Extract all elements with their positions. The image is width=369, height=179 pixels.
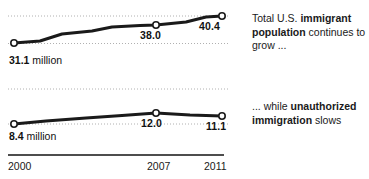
x-tick-label-2007: 2007: [147, 160, 170, 172]
marker-point-2007-bottom: [153, 110, 159, 116]
chart-panel-immigrant-population: 31.1 million 38.0 40.4 Total U.S. immigr…: [0, 0, 369, 92]
mid-value-label-bottom: 12.0: [141, 117, 162, 129]
annotation-prefix-top: Total U.S.: [252, 12, 300, 24]
data-line-immigrant-population: [14, 16, 222, 43]
end-value-label-bottom: 11.1: [206, 120, 226, 132]
start-value-number-top: 31.1: [9, 54, 29, 66]
plot-area-top: [0, 0, 232, 92]
end-value-label-top: 40.4: [199, 20, 220, 32]
x-tick-label-2000: 2000: [8, 160, 31, 172]
annotation-unauthorized-immigration: ... while unauthorized immigration slows: [252, 100, 369, 127]
mid-value-label-top: 38.0: [140, 29, 161, 41]
data-line-unauthorized-immigration: [14, 113, 222, 124]
marker-point-2011-bottom: [219, 113, 225, 119]
x-tick-label-2011: 2011: [204, 160, 227, 172]
start-value-number-bottom: 8.4: [9, 130, 24, 142]
chart-panel-unauthorized-immigration: 8.4 million 12.0 11.1 ... while unauthor…: [0, 86, 369, 179]
annotation-suffix-bottom: slows: [312, 114, 341, 126]
marker-point-2007-top: [153, 22, 159, 28]
start-value-unit-bottom: million: [24, 130, 57, 142]
annotation-prefix-bottom: ... while: [252, 100, 291, 112]
x-axis-line: [8, 154, 224, 156]
start-value-unit-top: million: [29, 54, 62, 66]
annotation-immigrant-population: Total U.S. immigrant population continue…: [252, 12, 369, 53]
start-value-label-top: 31.1 million: [9, 54, 62, 66]
marker-point-2000-top: [11, 40, 17, 46]
start-value-label-bottom: 8.4 million: [9, 130, 56, 142]
marker-point-2000-bottom: [11, 121, 17, 127]
marker-point-2011-top: [219, 13, 225, 19]
immigration-trends-figure: 31.1 million 38.0 40.4 Total U.S. immigr…: [0, 0, 369, 179]
